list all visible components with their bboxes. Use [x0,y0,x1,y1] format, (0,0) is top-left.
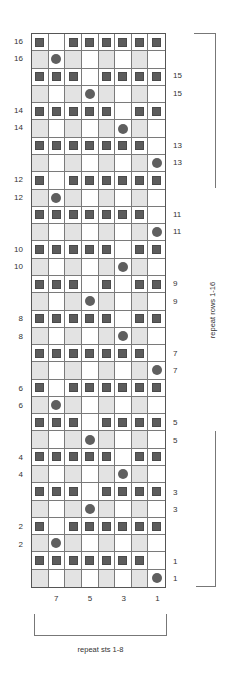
chart-cell [99,570,116,587]
chart-cell [115,241,132,258]
chart-cell [115,103,132,120]
column-number-label: 7 [48,594,64,603]
chart-cell [65,276,82,293]
chart-cell [32,190,49,207]
chart-cell [99,190,116,207]
column-number-label: 5 [82,594,98,603]
square-stitch-icon [135,280,144,289]
chart-cell [82,414,99,431]
chart-cell [65,103,82,120]
square-stitch-icon [35,245,44,254]
chart-cell [115,535,132,552]
chart-cell [82,449,99,466]
square-stitch-icon [52,210,61,219]
chart-cell [65,380,82,397]
chart-cell [132,311,149,328]
chart-cell [32,328,49,345]
square-stitch-icon [102,383,111,392]
chart-cell [99,276,116,293]
chart-cell [32,120,49,137]
chart-cell [65,397,82,414]
square-stitch-icon [69,176,78,185]
chart-cell [132,172,149,189]
chart-cell [115,155,132,172]
chart-cell [148,466,165,483]
square-stitch-icon [135,349,144,358]
square-stitch-icon [85,314,94,323]
chart-cell [132,431,149,448]
chart-cell [148,311,165,328]
chart-cell [132,259,149,276]
repeat-sts-bracket-right-line [166,614,167,636]
chart-cell [99,86,116,103]
square-stitch-icon [35,38,44,47]
chart-cell [148,86,165,103]
square-stitch-icon [85,38,94,47]
square-stitch-icon [152,107,161,116]
chart-cell [99,535,116,552]
chart-cell [115,483,132,500]
square-stitch-icon [85,522,94,531]
repeat-rows-bracket-top-tick [194,33,216,34]
square-stitch-icon [35,383,44,392]
chart-cell [148,518,165,535]
chart-cell [132,276,149,293]
dot-stitch-icon [51,193,61,203]
chart-cell [148,397,165,414]
chart-cell [32,224,49,241]
square-stitch-icon [35,556,44,565]
square-stitch-icon [135,176,144,185]
square-stitch-icon [152,314,161,323]
square-stitch-icon [152,418,161,427]
chart-cell [82,535,99,552]
chart-cell [115,449,132,466]
chart-cell [82,86,99,103]
chart-cell [115,552,132,569]
row-number-label: 13 [173,141,187,151]
chart-cell [148,431,165,448]
chart-cell [65,138,82,155]
square-stitch-icon [69,383,78,392]
chart-cell [99,345,116,362]
chart-cell [49,501,66,518]
chart-cell [82,380,99,397]
square-stitch-icon [118,349,127,358]
chart-cell [99,483,116,500]
row-number-label: 6 [9,384,23,394]
chart-cell [65,414,82,431]
chart-cell [115,518,132,535]
dot-stitch-icon [85,296,95,306]
chart-cell [115,207,132,224]
square-stitch-icon [102,452,111,461]
chart-cell [82,155,99,172]
chart-cell [132,466,149,483]
chart-cell [82,397,99,414]
chart-cell [49,120,66,137]
row-number-label: 14 [9,106,23,116]
chart-cell [115,34,132,51]
square-stitch-icon [52,141,61,150]
chart-cell [148,120,165,137]
square-stitch-icon [69,38,78,47]
chart-cell [65,120,82,137]
chart-cell [82,552,99,569]
chart-cell [82,431,99,448]
square-stitch-icon [135,487,144,496]
chart-cell [148,293,165,310]
square-stitch-icon [52,487,61,496]
chart-cell [132,518,149,535]
row-number-label: 5 [173,418,187,428]
chart-cell [132,570,149,587]
dot-stitch-icon [85,89,95,99]
square-stitch-icon [102,556,111,565]
chart-cell [148,328,165,345]
chart-cell [82,276,99,293]
chart-cell [99,103,116,120]
chart-cell [32,138,49,155]
row-number-label: 8 [9,332,23,342]
square-stitch-icon [102,314,111,323]
chart-cell [32,86,49,103]
chart-cell [82,345,99,362]
chart-cell [115,328,132,345]
chart-cell [148,501,165,518]
